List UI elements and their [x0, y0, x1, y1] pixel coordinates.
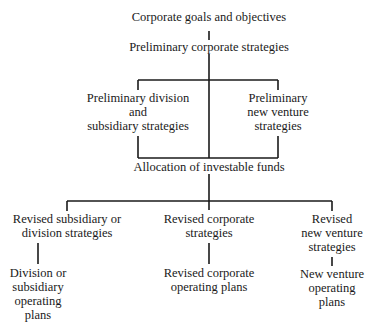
node-preliminary-division-strategies: Preliminary division and subsidiary stra… — [87, 91, 189, 133]
node-line: division strategies — [13, 226, 121, 240]
node-revised-subsidiary-strategies: Revised subsidiary or division strategie… — [13, 212, 121, 240]
node-line: Division or — [10, 266, 67, 280]
node-line: Revised subsidiary or — [13, 212, 121, 226]
node-new-venture-operating-plans: New venture operating plans — [300, 267, 364, 309]
node-line: and — [87, 105, 189, 119]
node-line: Preliminary — [247, 91, 308, 105]
node-line: New venture — [300, 267, 364, 281]
node-corporate-goals: Corporate goals and objectives — [132, 10, 286, 24]
node-line: subsidiary — [10, 280, 67, 294]
node-line: subsidiary strategies — [87, 119, 189, 133]
node-line: new venture — [247, 105, 308, 119]
node-line: operating — [300, 281, 364, 295]
node-line: Allocation of investable funds — [133, 160, 284, 174]
node-allocation-of-investable-funds: Allocation of investable funds — [133, 160, 284, 174]
node-line: operating plans — [164, 280, 255, 294]
node-division-operating-plans: Division or subsidiary operating plans — [10, 266, 67, 322]
node-line: Preliminary corporate strategies — [129, 40, 289, 54]
node-line: strategies — [301, 240, 362, 254]
node-preliminary-corporate-strategies: Preliminary corporate strategies — [129, 40, 289, 54]
node-line: plans — [10, 308, 67, 322]
node-line: Revised corporate — [164, 266, 255, 280]
node-line: Revised corporate — [164, 212, 255, 226]
node-revised-corporate-strategies: Revised corporate strategies — [164, 212, 255, 240]
node-line: operating — [10, 294, 67, 308]
node-line: Revised — [301, 212, 362, 226]
node-preliminary-new-venture-strategies: Preliminary new venture strategies — [247, 91, 308, 133]
node-line: strategies — [164, 226, 255, 240]
node-line: Corporate goals and objectives — [132, 10, 286, 24]
node-line: Preliminary division — [87, 91, 189, 105]
node-revised-corporate-operating-plans: Revised corporate operating plans — [164, 266, 255, 294]
node-line: strategies — [247, 119, 308, 133]
node-revised-new-venture-strategies: Revised new venture strategies — [301, 212, 362, 254]
node-line: new venture — [301, 226, 362, 240]
strategic-planning-diagram: Corporate goals and objectives Prelimina… — [0, 0, 373, 331]
node-line: plans — [300, 295, 364, 309]
